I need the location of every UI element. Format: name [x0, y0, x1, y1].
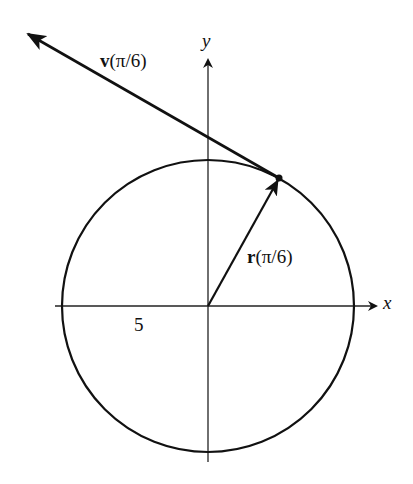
x-axis-label: x — [383, 292, 391, 314]
velocity-vector-name: v — [100, 50, 110, 71]
position-vector-label: r(π/6) — [247, 246, 292, 268]
point-on-circle — [276, 175, 283, 182]
position-vector-arrow — [208, 180, 278, 306]
velocity-vector-label: v(π/6) — [100, 50, 147, 72]
position-vector-arg: (π/6) — [255, 246, 292, 267]
radius-label: 5 — [134, 314, 144, 336]
velocity-vector-arrow — [28, 34, 279, 178]
y-axis-label: y — [202, 30, 210, 52]
velocity-vector-arg: (π/6) — [110, 50, 147, 71]
diagram-canvas — [0, 0, 413, 484]
